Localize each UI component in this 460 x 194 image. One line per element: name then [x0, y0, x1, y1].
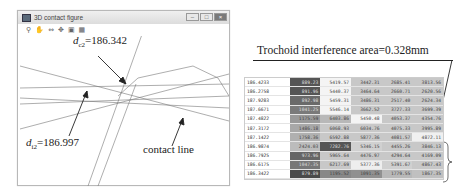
- table-cell: 5346.15: [351, 142, 382, 150]
- table-cell: 1779.55: [382, 170, 413, 178]
- di2-label: di2=186.997: [26, 136, 79, 151]
- contact-lines-graphic: [18, 36, 229, 186]
- table-cell: 2685.41: [382, 78, 413, 86]
- table-row[interactable]: 187.9283892.985459.313486.312517.402624.…: [245, 96, 443, 105]
- 3d-contact-figure-window[interactable]: 3D contact figure – □ × ⚲ ✋ ⇔ ✥ ▣ ▦: [17, 10, 230, 186]
- table-cell: 1486.18: [290, 124, 321, 132]
- table-row[interactable]: 187.48221175.596403.865450.484053.374354…: [245, 115, 443, 124]
- table-cell: 5419.57: [320, 78, 351, 86]
- table-cell: 7282.76: [320, 142, 351, 150]
- row-key-cell: 186.7925: [245, 152, 290, 160]
- table-cell: 5877.36: [351, 133, 382, 141]
- table-cell: 1758.36: [290, 133, 321, 141]
- table-cell: 1041.25: [290, 106, 321, 114]
- table-cell: 4872.11: [412, 133, 443, 141]
- row-key-cell: 186.3422: [245, 170, 290, 178]
- table-cell: 6217.69: [320, 161, 351, 169]
- table-cell: 1047.35: [290, 161, 321, 169]
- table-cell: 3662.52: [351, 106, 382, 114]
- row-key-cell: 186.2758: [245, 87, 290, 95]
- table-cell: 6403.86: [320, 115, 351, 123]
- rotate-icon[interactable]: ✥: [58, 25, 64, 35]
- table-cell: 3813.56: [412, 78, 443, 86]
- table-cell: 1091.35: [351, 170, 382, 178]
- table-row[interactable]: 186.2758891.965440.373464.642660.712620.…: [245, 87, 443, 96]
- table-cell: 4476.97: [351, 152, 382, 160]
- table-cell: 2660.71: [382, 87, 413, 95]
- table-cell: 5440.37: [320, 87, 351, 95]
- dc2-label: dc2=186.342: [73, 34, 127, 49]
- table-cell: 5450.48: [351, 115, 382, 123]
- app-icon: [22, 14, 31, 22]
- contact-plot-canvas[interactable]: dc2=186.342 di2=186.997 contact line: [18, 36, 229, 186]
- row-key-cell: 186.6175: [245, 161, 290, 169]
- table-cell: 3995.89: [412, 124, 443, 132]
- table-cell: 5546.14: [320, 106, 351, 114]
- contact-line-label: contact line: [143, 143, 194, 155]
- table-cell: 891.96: [290, 87, 321, 95]
- table-cell: 4455.26: [382, 142, 413, 150]
- table-cell: 4169.09: [412, 152, 443, 160]
- table-row[interactable]: 187.14221758.366592.885877.364081.574872…: [245, 133, 443, 142]
- table-cell: 4053.37: [382, 115, 413, 123]
- table-cell: 4867.43: [412, 161, 443, 169]
- table-row[interactable]: 186.98742424.037282.765346.154455.263846…: [245, 142, 443, 151]
- table-cell: 1867.35: [412, 170, 443, 178]
- table-cell: 2517.40: [382, 96, 413, 104]
- table-cell: 2424.03: [290, 142, 321, 150]
- table-cell: 3442.31: [351, 78, 382, 86]
- table-cell: 4294.64: [382, 152, 413, 160]
- table-cell: 6592.88: [320, 133, 351, 141]
- window-title: 3D contact figure: [34, 14, 83, 21]
- table-cell: 3464.64: [351, 87, 382, 95]
- table-row[interactable]: 187.31721486.186068.936034.764075.333995…: [245, 124, 443, 133]
- table-cell: 1195.52: [320, 170, 351, 178]
- table-cell: 973.96: [290, 152, 321, 160]
- table-cell: 6068.93: [320, 124, 351, 132]
- table-cell: 5459.31: [320, 96, 351, 104]
- table-cell: 3486.31: [351, 96, 382, 104]
- table-cell: 3727.33: [382, 106, 413, 114]
- table-row[interactable]: 186.7925973.965965.644476.974294.644169.…: [245, 152, 443, 161]
- table-cell: 2620.56: [412, 87, 443, 95]
- row-key-cell: 187.3172: [245, 124, 290, 132]
- close-button[interactable]: ×: [214, 13, 227, 21]
- annotation-underline: [253, 60, 453, 61]
- table-cell: 2624.34: [412, 96, 443, 104]
- table-cell: 1175.59: [290, 115, 321, 123]
- row-key-cell: 186.9874: [245, 142, 290, 150]
- row-key-cell: 187.1422: [245, 133, 290, 141]
- table-cell: 5965.64: [320, 152, 351, 160]
- table-cell: 3699.39: [412, 106, 443, 114]
- row-key-cell: 187.4822: [245, 115, 290, 123]
- table-cell: 3846.13: [412, 142, 443, 150]
- table-cell: 4075.33: [382, 124, 413, 132]
- table-cell: 889.23: [290, 78, 321, 86]
- row-key-cell: 187.9283: [245, 96, 290, 104]
- row-key-cell: 186.4233: [245, 78, 290, 86]
- table-row[interactable]: 186.3422879.891195.521091.351779.551867.…: [245, 170, 443, 179]
- title-bar[interactable]: 3D contact figure – □ ×: [18, 11, 229, 24]
- pan-hand-icon[interactable]: ✋: [35, 25, 44, 35]
- table-row[interactable]: 187.66711041.255546.143662.523727.333699…: [245, 106, 443, 115]
- table-row[interactable]: 186.61751047.356217.695377.365391.674867…: [245, 161, 443, 170]
- trochoid-interference-annotation: Trochoid interference area=0.328mm: [257, 44, 429, 56]
- table-row[interactable]: 186.4233889.235419.573442.312685.413813.…: [245, 78, 443, 87]
- fit-icon[interactable]: ⇔: [48, 25, 54, 35]
- table-cell: 5377.36: [351, 161, 382, 169]
- table-cell: 6034.76: [351, 124, 382, 132]
- minimize-button[interactable]: –: [186, 13, 199, 21]
- maximize-button[interactable]: □: [200, 13, 213, 21]
- table-cell: 879.89: [290, 170, 321, 178]
- table-cell: 5391.67: [382, 161, 413, 169]
- contact-data-table[interactable]: 186.4233889.235419.573442.312685.413813.…: [244, 77, 444, 180]
- row-key-cell: 187.6671: [245, 106, 290, 114]
- zoom-icon[interactable]: ⚲: [26, 25, 31, 35]
- table-cell: 4081.57: [382, 133, 413, 141]
- table-cell: 892.98: [290, 96, 321, 104]
- table-cell: 4354.76: [412, 115, 443, 123]
